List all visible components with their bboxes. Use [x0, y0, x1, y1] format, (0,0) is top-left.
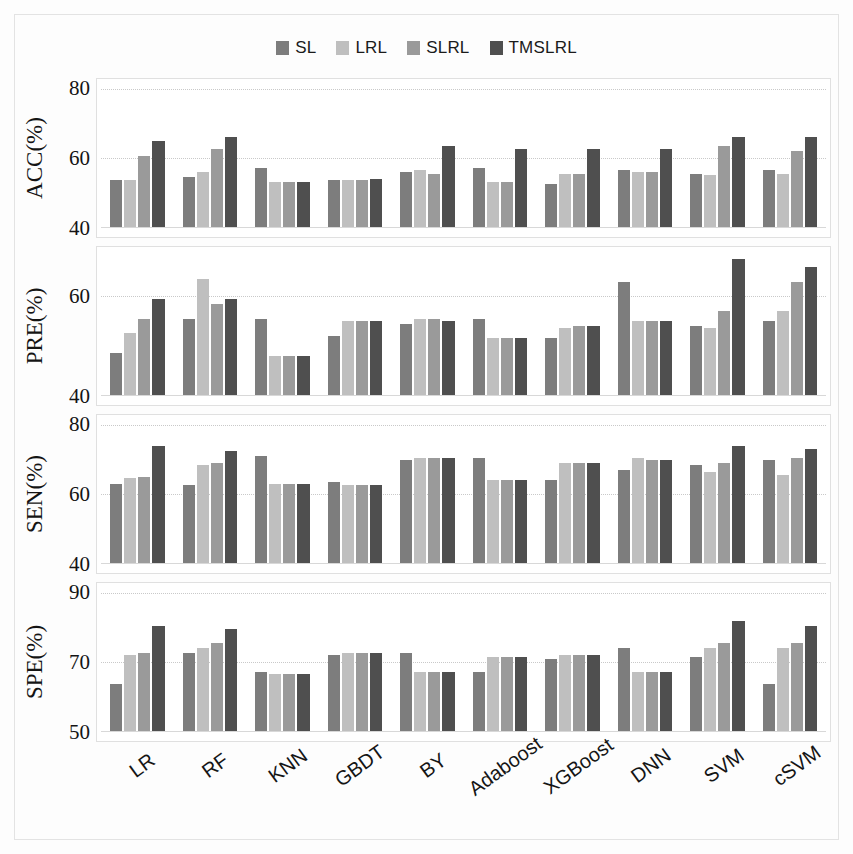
y-tick-label: 40 [69, 216, 90, 241]
bar-lrl [342, 653, 354, 731]
bar-tmslrl [660, 149, 672, 227]
bar-lrl [197, 172, 209, 227]
bar-groups [101, 257, 826, 395]
legend-label: LRL [355, 38, 387, 58]
bar-slrl [283, 356, 295, 395]
bar-tmslrl [732, 137, 744, 227]
bar-group [536, 593, 609, 731]
bar-tmslrl [442, 321, 454, 395]
bar-sl [545, 338, 557, 395]
plot-area [96, 78, 831, 238]
y-axis-ticks: 507090 [52, 582, 96, 742]
bar-group [246, 89, 319, 227]
bar-sl [763, 684, 775, 731]
bar-tmslrl [660, 321, 672, 395]
y-tick-label: 80 [69, 412, 90, 437]
x-tick-label: RF [198, 748, 233, 782]
x-tick: cSVM [754, 750, 827, 842]
bar-lrl [342, 180, 354, 227]
bar-tmslrl [732, 621, 744, 731]
bar-slrl [211, 149, 223, 227]
bar-tmslrl [442, 672, 454, 731]
bar-lrl [487, 182, 499, 227]
bar-slrl [501, 338, 513, 395]
bar-group [174, 425, 247, 563]
bar-tmslrl [370, 179, 382, 227]
bar-slrl [211, 643, 223, 731]
bar-tmslrl [370, 653, 382, 731]
bar-lrl [124, 180, 136, 227]
bar-slrl [211, 463, 223, 563]
bar-slrl [646, 460, 658, 564]
bar-group [101, 257, 174, 395]
bar-tmslrl [225, 137, 237, 227]
bar-group [391, 257, 464, 395]
legend-swatch-icon [490, 41, 503, 55]
bar-group [609, 593, 682, 731]
x-tick-label: LR [126, 749, 160, 783]
x-tick: LR [100, 750, 173, 842]
bar-slrl [428, 672, 440, 731]
bar-lrl [559, 655, 571, 731]
bar-slrl [138, 156, 150, 227]
bar-slrl [428, 174, 440, 227]
bar-group [754, 593, 827, 731]
y-tick-label: 90 [69, 580, 90, 605]
chart-panel-sen: SEN(%)406080 [18, 414, 831, 574]
bar-lrl [704, 328, 716, 395]
bar-sl [400, 460, 412, 564]
chart-legend: SLLRLSLRLTMSLRL [0, 38, 853, 58]
bar-group [391, 593, 464, 731]
x-tick: GBDT [318, 750, 391, 842]
bar-group [174, 257, 247, 395]
bar-lrl [197, 648, 209, 731]
bar-tmslrl [805, 267, 817, 395]
bar-groups [101, 89, 826, 227]
bar-slrl [138, 319, 150, 395]
bar-slrl [573, 655, 585, 731]
bar-sl [328, 655, 340, 731]
x-tick: Adaboost [464, 750, 537, 842]
bar-group [754, 425, 827, 563]
bar-slrl [428, 319, 440, 395]
bar-group [464, 593, 537, 731]
bar-sl [690, 657, 702, 731]
plot-area [96, 414, 831, 574]
bar-sl [400, 653, 412, 731]
gridline [101, 731, 826, 732]
legend-item-slrl: SLRL [407, 38, 469, 58]
chart-panel-spe: SPE(%)507090 [18, 582, 831, 742]
bar-slrl [356, 485, 368, 563]
y-tick-label: 70 [69, 650, 90, 675]
x-tick-label: XGBoost [539, 733, 617, 799]
bar-tmslrl [297, 674, 309, 731]
bar-sl [473, 319, 485, 395]
bar-tmslrl [297, 484, 309, 563]
bar-sl [328, 482, 340, 563]
legend-label: SLRL [426, 38, 469, 58]
bar-group [174, 593, 247, 731]
bar-group [246, 257, 319, 395]
gridline [101, 227, 826, 228]
bar-lrl [342, 321, 354, 395]
bar-sl [618, 470, 630, 563]
bar-slrl [573, 326, 585, 395]
bar-sl [110, 180, 122, 227]
bar-sl [545, 659, 557, 731]
bar-lrl [197, 279, 209, 395]
bar-lrl [559, 463, 571, 563]
x-tick-label: SVM [700, 744, 749, 788]
x-tick-label: KNN [264, 744, 312, 787]
bar-lrl [124, 478, 136, 563]
bar-slrl [138, 477, 150, 563]
bar-sl [110, 684, 122, 731]
bar-group [754, 257, 827, 395]
chart-panel-acc: ACC(%)406080 [18, 78, 831, 238]
bar-slrl [356, 180, 368, 227]
bar-group [681, 425, 754, 563]
x-tick: RF [173, 750, 246, 842]
bar-sl [690, 326, 702, 395]
bar-lrl [197, 465, 209, 563]
y-axis-label: ACC(%) [18, 78, 52, 238]
x-tick-label: Adaboost [464, 732, 546, 800]
